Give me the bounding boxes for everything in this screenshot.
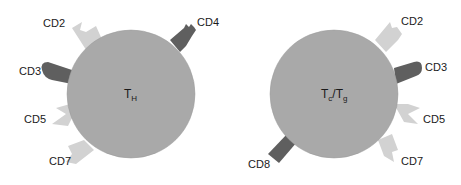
helper-t-cell-group: TH CD2 CD4 CD3 CD5 CD7 (19, 16, 219, 167)
cd3-label-left: CD3 (19, 65, 41, 77)
cd7-label-right: CD7 (401, 155, 423, 167)
cd4-label-left: CD4 (197, 16, 219, 28)
cd2-label-left: CD2 (43, 17, 65, 29)
cd3-receptor-left (42, 62, 72, 84)
cd2-label-right: CD2 (401, 15, 423, 27)
cd7-label-left: CD7 (49, 155, 71, 167)
cd5-label-left: CD5 (24, 113, 46, 125)
cd3-receptor-right (394, 62, 422, 84)
t-cell-diagram: TH CD2 CD4 CD3 CD5 CD7 Tc/Tg (0, 0, 461, 185)
cd8-label-right: CD8 (248, 158, 270, 170)
cd5-label-right: CD5 (423, 113, 445, 125)
cd5-receptor-right (394, 104, 420, 124)
cytotoxic-t-cell-group: Tc/Tg CD2 CD3 CD5 CD7 CD8 (248, 15, 447, 170)
cd3-label-right: CD3 (425, 61, 447, 73)
cd2-receptor-right (375, 22, 402, 52)
cd7-receptor-right (378, 134, 398, 162)
